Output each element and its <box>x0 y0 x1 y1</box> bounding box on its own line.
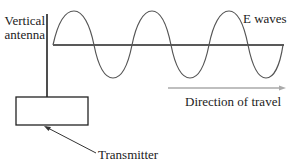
transmitter-label: Transmitter <box>98 148 158 162</box>
direction-label: Direction of travel <box>185 95 281 109</box>
transmitter-pointer <box>46 127 96 153</box>
antenna-label: Vertical antenna <box>3 14 45 42</box>
transmitter-pointer-arrowhead-icon <box>44 126 51 131</box>
e-waves-label: E waves <box>243 12 287 26</box>
antenna-label-line1: Vertical <box>3 14 45 28</box>
transmitter-box <box>16 97 88 125</box>
antenna-label-line2: antenna <box>3 28 45 42</box>
direction-arrowhead-icon <box>279 86 286 91</box>
diagram: Vertical antenna E waves Direction of tr… <box>0 0 294 167</box>
